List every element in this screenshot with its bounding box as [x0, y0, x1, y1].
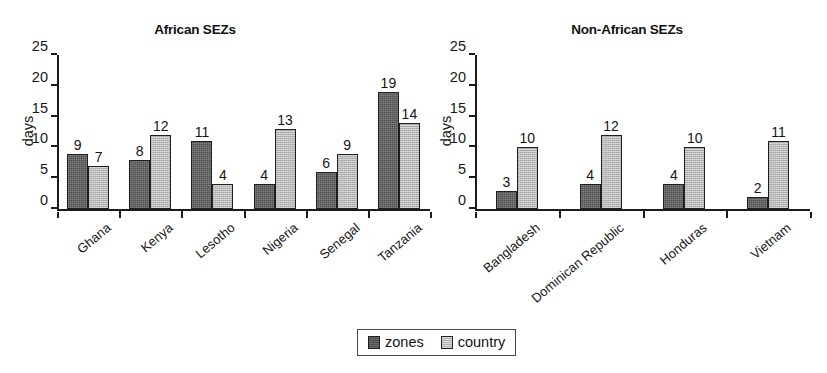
bar-zones-dominican-republic: 4 — [580, 184, 601, 209]
bar-value-label: 9 — [343, 137, 351, 153]
legend-entry-country: country — [441, 334, 506, 350]
bar-country-tanzania: 14 — [399, 123, 420, 209]
bar-country-lesotho: 4 — [212, 184, 233, 209]
y-tick-label: 0 — [458, 192, 466, 208]
bar-country-honduras: 10 — [684, 147, 705, 209]
bar-zones-senegal: 6 — [316, 172, 337, 209]
bar-value-label: 10 — [687, 130, 703, 146]
y-tick-mark — [51, 53, 57, 55]
bar-zones-kenya: 8 — [129, 160, 150, 209]
legend-entry-zones: zones — [368, 334, 424, 350]
bar-country-dominican-republic: 12 — [601, 135, 622, 209]
y-tick-label: 20 — [32, 68, 48, 84]
x-axis-end-tick — [475, 212, 477, 218]
bar-country-kenya: 12 — [150, 135, 171, 209]
bar-value-label: 7 — [95, 149, 103, 165]
bar-value-label: 10 — [520, 130, 536, 146]
chart-panel-african-sezs: African SEZs days 0510152025 97812114413… — [0, 0, 440, 320]
bar-zones-honduras: 4 — [663, 184, 684, 209]
y-tick-mark — [51, 207, 57, 209]
y-tick-mark — [469, 53, 475, 55]
bar-value-label: 8 — [136, 143, 144, 159]
x-tick-mark — [119, 211, 121, 218]
bar-value-label: 9 — [74, 137, 82, 153]
bar-value-label: 4 — [260, 167, 268, 183]
bar-value-label: 11 — [771, 124, 786, 140]
y-tick-label: 5 — [458, 161, 466, 177]
y-tick-mark — [51, 115, 57, 117]
x-tick-mark — [643, 211, 645, 218]
x-axis-label-senegal: Senegal — [316, 220, 362, 262]
bar-country-bangladesh: 10 — [517, 147, 538, 209]
bar-value-label: 12 — [603, 118, 619, 134]
y-tick-mark — [51, 176, 57, 178]
bar-value-label: 19 — [381, 75, 397, 91]
y-tick-mark — [469, 115, 475, 117]
bar-value-label: 14 — [402, 106, 418, 122]
bar-value-label: 4 — [670, 167, 678, 183]
y-tick-mark — [469, 84, 475, 86]
x-tick-mark — [306, 211, 308, 218]
bar-value-label: 2 — [754, 180, 762, 196]
x-tick-mark — [181, 211, 183, 218]
bar-zones-bangladesh: 3 — [496, 191, 517, 209]
y-tick-label: 15 — [32, 99, 48, 115]
bar-country-senegal: 9 — [337, 154, 358, 209]
y-tick-mark — [469, 207, 475, 209]
bar-value-label: 11 — [195, 124, 210, 140]
x-axis-label-ghana: Ghana — [74, 220, 114, 257]
y-tick-label: 10 — [450, 130, 466, 146]
bar-value-label: 6 — [322, 155, 330, 171]
plot-area-african: days 0510152025 97812114413691914 GhanaK… — [57, 55, 430, 211]
x-axis-end-tick — [810, 212, 812, 218]
x-axis-label-kenya: Kenya — [138, 220, 176, 255]
y-axis-line-african — [57, 55, 59, 211]
y-tick-label: 25 — [32, 38, 48, 54]
panel-title-african: African SEZs — [30, 22, 360, 37]
y-tick-label: 15 — [450, 99, 466, 115]
y-tick-mark — [51, 145, 57, 147]
bar-value-label: 13 — [277, 112, 293, 128]
plot-area-non-african: days 0510152025 310412410211 BangladeshD… — [475, 55, 810, 211]
legend-swatch-country-icon — [441, 336, 453, 349]
x-tick-mark — [726, 211, 728, 218]
x-tick-mark — [244, 211, 246, 218]
y-tick-mark — [469, 145, 475, 147]
x-tick-mark — [368, 211, 370, 218]
x-axis-label-bangladesh: Bangladesh — [480, 220, 542, 276]
figure-root: African SEZs days 0510152025 97812114413… — [0, 0, 827, 373]
bar-zones-vietnam: 2 — [747, 197, 768, 209]
bar-zones-nigeria: 4 — [254, 184, 275, 209]
x-axis-label-lesotho: Lesotho — [193, 220, 238, 261]
x-axis-label-nigeria: Nigeria — [259, 220, 300, 258]
bar-zones-lesotho: 11 — [191, 141, 212, 209]
x-axis-label-honduras: Honduras — [657, 220, 710, 268]
chart-legend: zones country — [357, 329, 516, 356]
bar-country-ghana: 7 — [88, 166, 109, 209]
bar-country-vietnam: 11 — [768, 141, 789, 209]
bar-zones-tanzania: 19 — [378, 92, 399, 209]
y-axis-line-non-african — [475, 55, 477, 211]
x-axis-label-vietnam: Vietnam — [748, 220, 794, 262]
bar-country-nigeria: 13 — [275, 129, 296, 209]
x-axis-label-dominican-republic: Dominican Republic — [528, 220, 626, 306]
x-tick-mark — [559, 211, 561, 218]
legend-swatch-zones-icon — [368, 336, 380, 349]
bar-value-label: 4 — [219, 167, 227, 183]
bar-value-label: 12 — [153, 118, 169, 134]
y-tick-label: 5 — [40, 161, 48, 177]
y-tick-label: 25 — [450, 38, 466, 54]
x-axis-end-tick — [57, 212, 59, 218]
chart-panel-non-african-sezs: Non-African SEZs days 0510152025 3104124… — [432, 0, 827, 320]
legend-label-country: country — [458, 334, 506, 350]
legend-label-zones: zones — [385, 334, 424, 350]
y-tick-label: 0 — [40, 192, 48, 208]
y-tick-mark — [469, 176, 475, 178]
bar-value-label: 4 — [586, 167, 594, 183]
x-axis-label-tanzania: Tanzania — [375, 220, 425, 265]
bar-zones-ghana: 9 — [67, 154, 88, 209]
y-tick-label: 20 — [450, 68, 466, 84]
panel-title-non-african: Non-African SEZs — [462, 22, 792, 37]
y-tick-mark — [51, 84, 57, 86]
y-tick-label: 10 — [32, 130, 48, 146]
